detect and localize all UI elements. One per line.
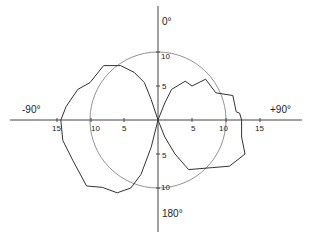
right-lobe-curve (158, 79, 245, 169)
tick-label-right-5: 5 (191, 124, 196, 133)
angle-label-bottom: 180° (162, 208, 183, 219)
tick-label-bottom-10: 10 (161, 183, 170, 192)
tick-label-top-5: 5 (162, 82, 167, 91)
tick-label-left-5: 5 (122, 124, 127, 133)
polar-diagram: 0° +90° 180° -90° 15 10 5 5 10 15 10 5 5… (0, 0, 313, 238)
tick-label-bottom-5: 5 (162, 151, 167, 160)
tick-label-left-10: 10 (91, 124, 100, 133)
angle-label-top: 0° (162, 16, 172, 27)
angle-label-left: -90° (22, 104, 40, 115)
tick-label-right-15: 15 (255, 124, 264, 133)
tick-label-top-10: 10 (161, 52, 170, 61)
tick-label-right-10: 10 (219, 124, 228, 133)
tick-label-left-15: 15 (52, 124, 61, 133)
left-lobe-curve (61, 66, 158, 193)
angle-label-right: +90° (270, 104, 291, 115)
